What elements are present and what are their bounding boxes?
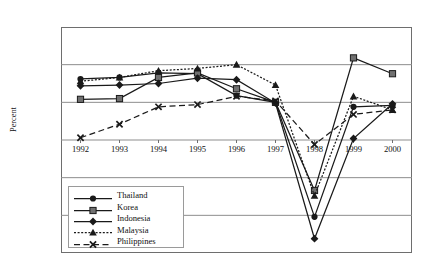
data-point-marker [350, 93, 358, 100]
data-point-marker [350, 104, 356, 110]
data-point-marker [77, 96, 83, 102]
legend-item-malaysia[interactable]: Malaysia [73, 224, 183, 235]
data-point-marker [350, 55, 356, 61]
data-point-marker [272, 81, 280, 88]
figure-root: Figure 1: Adjustment of Real GDP Growth … [0, 0, 424, 261]
data-point-marker [311, 235, 319, 243]
legend-label: Korea [113, 203, 138, 212]
data-point-marker [116, 81, 124, 89]
legend-label: Philippines [113, 237, 156, 246]
data-point-marker [311, 214, 317, 220]
data-point-marker [389, 71, 395, 77]
data-point-marker [155, 67, 163, 74]
data-point-marker [116, 95, 122, 101]
series-philippines [77, 93, 395, 147]
legend-label: Indonesia [113, 214, 150, 223]
legend-key-korea-icon [73, 202, 113, 213]
legend-item-indonesia[interactable]: Indonesia [73, 213, 183, 224]
series-line [81, 96, 393, 144]
data-point-marker [116, 121, 122, 127]
legend-label: Thailand [113, 191, 148, 200]
legend-key-malaysia-icon [73, 224, 113, 235]
data-point-marker [233, 76, 241, 84]
legend-item-korea[interactable]: Korea [73, 201, 183, 212]
legend-label: Malaysia [113, 226, 149, 235]
legend-key-indonesia-icon [73, 213, 113, 224]
legend-key-philippines-icon [73, 236, 113, 247]
chart-legend: ThailandKoreaIndonesiaMalaysiaPhilippine… [68, 186, 184, 248]
legend-item-thailand[interactable]: Thailand [73, 190, 183, 201]
data-point-marker [233, 86, 239, 92]
legend-item-philippines[interactable]: Philippines [73, 236, 183, 247]
legend-key-thailand-icon [73, 190, 113, 201]
